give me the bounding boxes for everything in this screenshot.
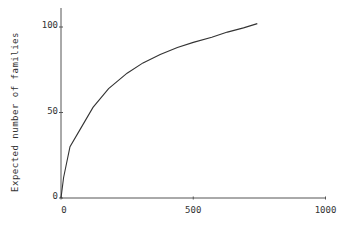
- chart: 05001000050100 Expected number of famili…: [0, 0, 350, 228]
- y-tick-label: 0: [53, 191, 58, 201]
- y-tick-label: 50: [47, 106, 58, 116]
- x-tick-label: 500: [185, 205, 201, 215]
- y-axis-label: Expected number of families: [10, 32, 20, 192]
- data-line: [61, 24, 257, 198]
- x-tick-label: 0: [61, 205, 66, 215]
- y-tick-label: 100: [42, 20, 58, 30]
- ticks: 05001000050100: [42, 20, 337, 215]
- axes: [61, 8, 326, 198]
- x-tick-label: 1000: [315, 205, 337, 215]
